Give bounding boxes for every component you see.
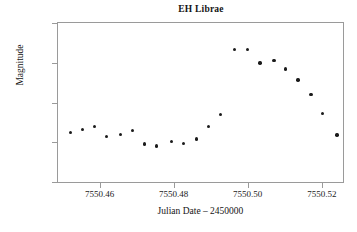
data-point xyxy=(233,48,236,51)
data-point xyxy=(272,59,275,62)
x-axis-label: Julian Date – 2450000 xyxy=(57,206,344,216)
data-point xyxy=(69,131,72,134)
data-point xyxy=(246,48,249,51)
data-point xyxy=(143,142,146,145)
plot-frame xyxy=(57,22,344,183)
chart-figure: EH Librae Julian Date – 2450000 Magnitud… xyxy=(0,0,357,232)
data-point xyxy=(258,61,261,64)
data-point xyxy=(131,129,134,132)
data-point xyxy=(284,67,287,70)
data-point xyxy=(296,78,299,81)
data-point xyxy=(119,133,122,136)
data-point xyxy=(170,140,173,143)
data-point xyxy=(309,93,312,96)
data-point xyxy=(93,125,96,128)
data-point xyxy=(321,112,324,115)
x-axis-tick xyxy=(100,183,101,188)
x-axis-tick xyxy=(174,183,175,188)
x-axis-tick-label: 7550.50 xyxy=(233,189,262,199)
data-point xyxy=(219,113,222,116)
x-axis-tick xyxy=(322,183,323,188)
y-axis-label: Magnitude xyxy=(15,5,25,125)
scatter-plot-area xyxy=(58,23,343,182)
x-axis-tick-label: 7550.46 xyxy=(85,189,114,199)
data-point xyxy=(105,135,108,138)
y-axis-tick xyxy=(52,103,57,104)
data-point xyxy=(207,125,210,128)
page-title: EH Librae xyxy=(57,4,345,14)
x-axis-tick-label: 7550.52 xyxy=(307,189,336,199)
data-point xyxy=(182,142,185,145)
y-axis-tick xyxy=(52,23,57,24)
y-axis-tick xyxy=(52,63,57,64)
y-axis-tick xyxy=(52,142,57,143)
data-point xyxy=(335,133,338,136)
x-axis-tick xyxy=(248,183,249,188)
x-axis-tick-label: 7550.48 xyxy=(159,189,188,199)
y-axis-tick xyxy=(52,182,57,183)
data-point xyxy=(81,128,84,131)
data-point xyxy=(155,144,158,147)
data-point xyxy=(195,137,198,140)
